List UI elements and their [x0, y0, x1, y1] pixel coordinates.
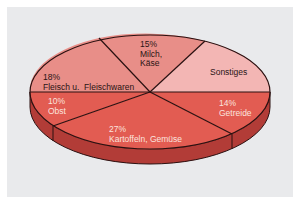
label-milch-line2: Käse: [140, 59, 162, 69]
label-obst: 10% Obst: [48, 97, 66, 116]
label-milch: 15% Milch, Käse: [140, 40, 162, 69]
label-sonstiges: Sonstiges: [210, 68, 247, 78]
label-kartoffeln: 27% Kartoffeln, Gemüse: [109, 125, 182, 144]
label-getreide: 14% Getreide: [219, 99, 252, 118]
label-fleisch: 18% Fleisch u. Fleischwaren: [43, 73, 134, 92]
pie-chart: [0, 0, 300, 204]
